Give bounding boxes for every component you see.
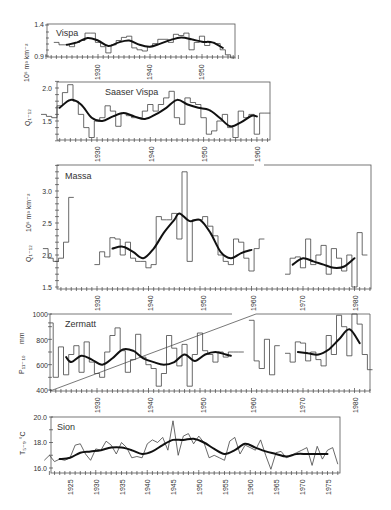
zermatt-ytick-600: 600 [36, 362, 48, 369]
vispa-ytick-0.9: 0.9 [34, 53, 44, 60]
zermatt-xtick-1950: 1950 [200, 397, 207, 413]
zermatt-xtick-1980: 1980 [352, 397, 359, 413]
massa-y-var: Q₁₋₁₂ [25, 245, 33, 262]
sion-xtick-1975: 1975 [325, 479, 332, 495]
panel-massa: Massa Q₁₋₁₂ 10⁶ m³ km⁻² 3.0 2.5 2.0 1.5 … [25, 163, 371, 311]
sion-xtick-1925: 1925 [67, 479, 74, 495]
massa-xtick-1980: 1980 [352, 295, 359, 311]
zermatt-xtick-1930: 1930 [94, 397, 101, 413]
zermatt-y-var: P₁₁₋₁₀ [18, 355, 25, 374]
sion-xtick-1950: 1950 [196, 479, 203, 495]
zermatt-xtick-1960: 1960 [250, 397, 257, 413]
sion-smoothed-series [60, 439, 328, 459]
saaser-xtick-1950: 1950 [201, 146, 208, 162]
massa-ytick-3.0: 3.0 [42, 188, 52, 195]
zermatt-ytick-1000: 1000 [32, 311, 48, 318]
saaser-y-var: Q₁₋₁₂ [24, 109, 32, 126]
sion-xtick-1960: 1960 [247, 479, 254, 495]
figure: Vispa 1.4 0.9 1930 1940 1950 10⁶ m³ km⁻²… [0, 0, 391, 510]
zermatt-annual-series [48, 314, 372, 386]
massa-ytick-1.5: 1.5 [42, 284, 52, 291]
sion-xtick-1955: 1955 [222, 479, 229, 495]
zermatt-xticks [51, 388, 370, 393]
massa-title: Massa [65, 171, 92, 181]
saaser-title: Saaser Vispa [105, 87, 158, 97]
vispa-ytick-1.4: 1.4 [34, 21, 44, 28]
saaser-xtick-1930: 1930 [94, 146, 101, 162]
massa-xtick-1930: 1930 [94, 295, 101, 311]
zermatt-xtick-1970: 1970 [299, 397, 306, 413]
sion-xtick-1940: 1940 [144, 479, 151, 495]
zermatt-ytick-800: 800 [36, 337, 48, 344]
massa-xtick-1950: 1950 [200, 295, 207, 311]
sion-title: Sion [57, 422, 75, 432]
zermatt-title: Zermatt [65, 319, 97, 329]
sion-xtick-1965: 1965 [273, 479, 280, 495]
panel-vispa: Vispa 1.4 0.9 1930 1940 1950 [34, 21, 238, 80]
panel-saaser-vispa: Saaser Vispa Q₁₋₁₂ 2.0 1.5 1930 1940 195… [24, 81, 270, 162]
panel-sion: Sion T₅₋₉ °C 20.0 18.0 16.0 192519301935… [19, 414, 340, 495]
panel-zermatt: Zermatt P₁₁₋₁₀ mm 1000 800 600 400 1930 … [18, 311, 373, 413]
sion-y-var: T₅₋₉ °C [19, 431, 26, 455]
zermatt-ytick-400: 400 [36, 387, 48, 394]
saaser-ytick-1.5: 1.5 [42, 118, 52, 125]
saaser-xtick-1960: 1960 [254, 146, 261, 162]
zermatt-xtick-1940: 1940 [147, 397, 154, 413]
sion-xtick-1930: 1930 [93, 479, 100, 495]
sion-xtick-1945: 1945 [170, 479, 177, 495]
vispa-xtick-1940: 1940 [146, 64, 153, 80]
vispa-y-unit: 10⁶ m³ km⁻² [23, 43, 30, 82]
vispa-title: Vispa [56, 28, 78, 38]
sion-annual-series [44, 421, 338, 470]
massa-frame [57, 165, 371, 289]
massa-annual-series [43, 172, 368, 287]
massa-xtick-1960: 1960 [250, 295, 257, 311]
massa-frame-gap-cover [254, 163, 264, 167]
sion-xtick-labels: 1925193019351940194519501955196019651970… [67, 479, 332, 495]
massa-ytick-2.5: 2.5 [42, 220, 52, 227]
saaser-xtick-1940: 1940 [148, 146, 155, 162]
sion-xticks [49, 470, 337, 475]
massa-xticks [61, 286, 370, 291]
sion-ytick-20.0: 20.0 [33, 414, 47, 421]
zermatt-y-unit: mm [18, 332, 25, 344]
sion-ytick-16.0: 16.0 [33, 465, 47, 472]
massa-xtick-1940: 1940 [147, 295, 154, 311]
vispa-xtick-1930: 1930 [94, 64, 101, 80]
sion-xtick-1970: 1970 [299, 479, 306, 495]
sion-ytick-18.0: 18.0 [33, 439, 47, 446]
massa-y-unit: 10⁶ m³ km⁻² [25, 193, 32, 232]
sion-frame [51, 417, 340, 473]
vispa-xtick-1950: 1950 [198, 64, 205, 80]
vispa-xticks [46, 54, 238, 59]
massa-xtick-1970: 1970 [299, 295, 306, 311]
saaser-ytick-2.0: 2.0 [42, 85, 52, 92]
sion-xtick-1935: 1935 [119, 479, 126, 495]
